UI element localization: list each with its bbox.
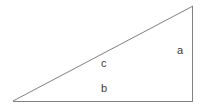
side-label-c: c [101, 58, 107, 69]
triangle-figure: a c b [0, 0, 205, 108]
side-label-a: a [177, 45, 183, 56]
side-label-b: b [101, 83, 107, 94]
